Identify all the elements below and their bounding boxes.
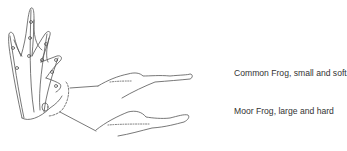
frog-foot-drawing	[9, 8, 69, 120]
moor-frog-tubercle-profile	[96, 111, 189, 136]
label-common-frog: Common Frog, small and soft	[234, 68, 347, 78]
label-moor-frog: Moor Frog, large and hard	[234, 106, 334, 116]
leader-line-common	[70, 86, 98, 88]
leader-line-moor	[60, 112, 96, 131]
common-frog-tubercle-profile	[98, 73, 192, 98]
